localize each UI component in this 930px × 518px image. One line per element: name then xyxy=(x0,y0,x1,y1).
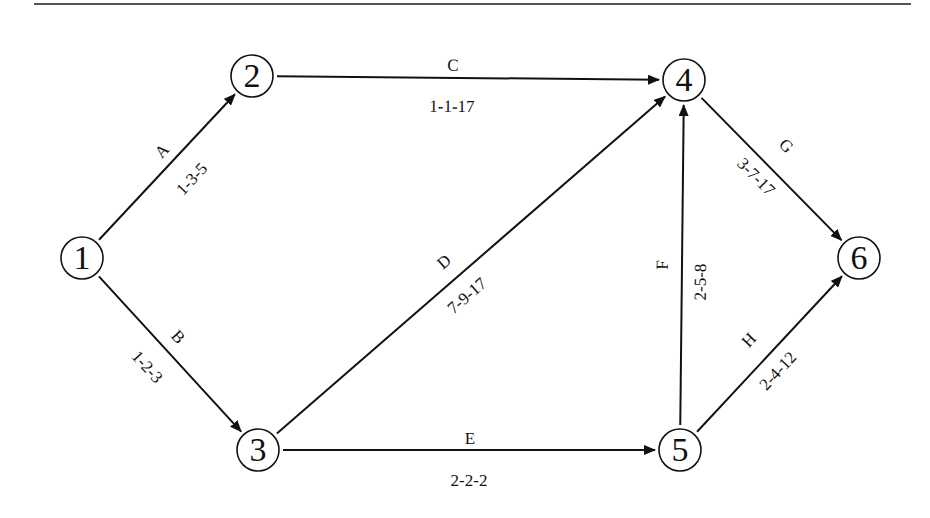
activity-name-label: D xyxy=(433,251,455,273)
event-node-3: 3 xyxy=(237,429,279,471)
activity-D: D7-9-17 xyxy=(277,96,665,433)
activity-arrow xyxy=(697,276,842,431)
event-node-2: 2 xyxy=(231,55,273,97)
activity-arrow xyxy=(702,98,842,240)
node-number-label: 2 xyxy=(244,57,261,94)
activity-name-label: E xyxy=(465,429,475,448)
activity-duration-label: 2-5-8 xyxy=(691,263,710,300)
event-node-5: 5 xyxy=(659,429,701,471)
activity-H: H2-4-12 xyxy=(697,276,842,431)
activity-duration-label: 1-2-3 xyxy=(128,347,167,387)
network-diagram: A1-3-5B1-2-3C1-1-17D7-9-17E2-2-2F2-5-8G3… xyxy=(0,0,930,518)
activity-name-label: F xyxy=(653,260,672,270)
activity-duration-label: 3-7-17 xyxy=(733,154,779,200)
activity-arrow xyxy=(99,94,235,239)
activity-arrow xyxy=(99,276,241,431)
activity-C: C1-1-17 xyxy=(277,56,659,116)
node-number-label: 1 xyxy=(74,239,91,276)
event-node-1: 1 xyxy=(61,237,103,279)
activity-name-label: C xyxy=(447,56,459,75)
activity-name-label: B xyxy=(167,326,189,347)
activity-duration-label: 1-3-5 xyxy=(172,159,211,199)
activity-B: B1-2-3 xyxy=(99,276,241,431)
activity-duration-label: 2-2-2 xyxy=(451,471,488,490)
activity-F: F2-5-8 xyxy=(653,105,710,425)
node-number-label: 4 xyxy=(676,61,693,98)
activity-name-label: A xyxy=(151,139,174,161)
activity-arrow xyxy=(277,96,665,433)
activity-arrow xyxy=(277,76,659,80)
event-node-4: 4 xyxy=(663,59,705,101)
node-number-label: 5 xyxy=(672,431,689,468)
activity-A: A1-3-5 xyxy=(99,94,235,239)
node-number-label: 3 xyxy=(250,431,267,468)
activity-duration-label: 7-9-17 xyxy=(444,273,491,317)
nodes-layer: 123456 xyxy=(61,55,880,471)
activity-E: E2-2-2 xyxy=(283,429,655,490)
activity-name-label: G xyxy=(775,135,797,157)
activity-duration-label: 1-1-17 xyxy=(429,97,475,116)
activity-duration-label: 2-4-12 xyxy=(755,348,800,394)
activity-G: G3-7-17 xyxy=(702,98,842,240)
activity-name-label: H xyxy=(738,329,760,351)
edges-layer: A1-3-5B1-2-3C1-1-17D7-9-17E2-2-2F2-5-8G3… xyxy=(99,56,842,490)
activity-arrow xyxy=(680,105,683,425)
event-node-6: 6 xyxy=(838,237,880,279)
diagram-canvas: A1-3-5B1-2-3C1-1-17D7-9-17E2-2-2F2-5-8G3… xyxy=(0,0,930,518)
node-number-label: 6 xyxy=(851,239,868,276)
